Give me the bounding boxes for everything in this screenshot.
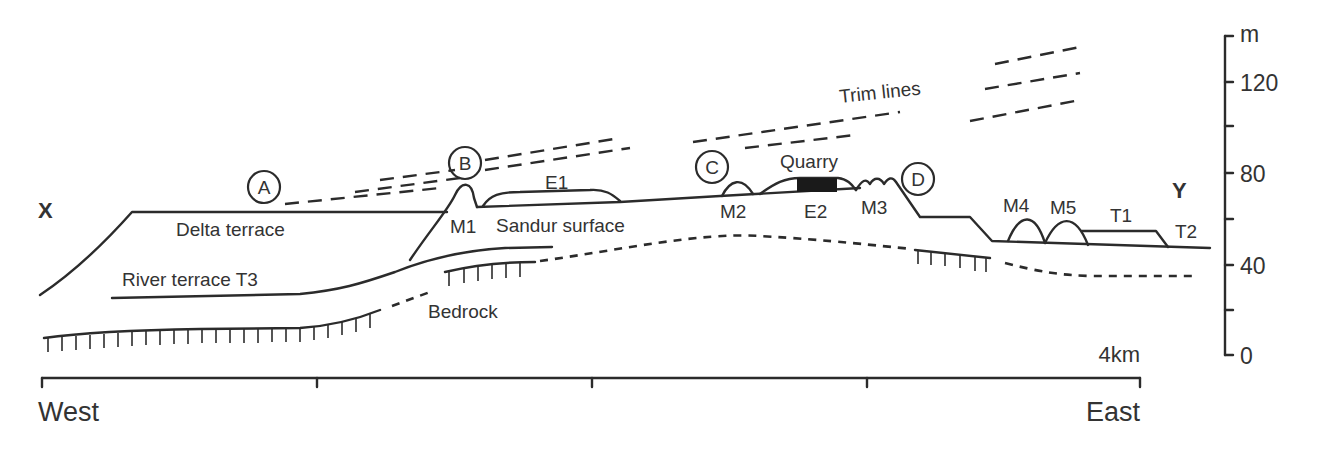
label-west: West bbox=[38, 397, 100, 427]
cross-section-diagram: A B C D X Y Delta terrace River terrace … bbox=[0, 0, 1324, 451]
label-t1: T1 bbox=[1110, 205, 1132, 226]
svg-text:80: 80 bbox=[1240, 161, 1266, 187]
svg-text:C: C bbox=[705, 157, 719, 178]
label-quarry: Quarry bbox=[780, 151, 839, 172]
bedrock-surface-west bbox=[44, 310, 380, 338]
svg-text:120: 120 bbox=[1240, 70, 1278, 96]
label-m4: M4 bbox=[1003, 195, 1030, 216]
section-end-x: X bbox=[38, 198, 53, 223]
bedrock-surface-mid bbox=[445, 262, 535, 272]
site-marker-d: D bbox=[902, 163, 934, 195]
svg-text:D: D bbox=[911, 169, 925, 190]
label-sandur: Sandur surface bbox=[496, 215, 625, 236]
bedrock-inferred-mid bbox=[540, 235, 912, 261]
svg-text:B: B bbox=[459, 153, 472, 174]
site-marker-c: C bbox=[696, 151, 728, 183]
svg-text:40: 40 bbox=[1240, 253, 1266, 279]
svg-text:0: 0 bbox=[1240, 343, 1253, 369]
site-marker-b: B bbox=[449, 147, 481, 179]
trim-lines bbox=[285, 47, 1080, 204]
site-marker-a: A bbox=[248, 171, 280, 203]
label-trim-lines: Trim lines bbox=[838, 78, 921, 107]
vertical-scale: m 120 80 40 0 bbox=[1225, 21, 1278, 369]
bedrock-inferred-west bbox=[392, 292, 430, 306]
label-m5: M5 bbox=[1050, 197, 1076, 218]
horizontal-scale: 4km West East bbox=[38, 342, 1140, 427]
svg-text:4km: 4km bbox=[1098, 342, 1140, 367]
label-delta-terrace: Delta terrace bbox=[176, 219, 285, 240]
label-m3: M3 bbox=[861, 197, 887, 218]
svg-text:A: A bbox=[258, 177, 271, 198]
moraine-m4 bbox=[1008, 219, 1045, 243]
section-end-y: Y bbox=[1172, 178, 1187, 203]
bedrock-hachures bbox=[48, 251, 986, 352]
bedrock-surface-east bbox=[915, 250, 990, 258]
label-east: East bbox=[1086, 397, 1141, 427]
quarry-fill bbox=[797, 178, 837, 192]
label-e1: E1 bbox=[545, 172, 568, 193]
svg-text:m: m bbox=[1240, 21, 1259, 47]
label-m1: M1 bbox=[450, 216, 476, 237]
label-river-terrace: River terrace T3 bbox=[122, 269, 258, 290]
bedrock-inferred-east bbox=[1005, 263, 1195, 276]
moraine-m3 bbox=[856, 178, 1210, 248]
moraine-m5 bbox=[1045, 221, 1088, 245]
label-bedrock: Bedrock bbox=[428, 301, 498, 322]
label-t2: T2 bbox=[1175, 221, 1197, 242]
label-e2: E2 bbox=[804, 201, 827, 222]
label-m2: M2 bbox=[720, 201, 746, 222]
